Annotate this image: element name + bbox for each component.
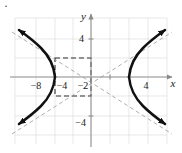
right-branch-upper <box>129 30 165 77</box>
hyperbola-figure: −8 −4 −2 4 4 −4 y x · <box>0 0 182 153</box>
y-axis-label: y <box>80 10 86 22</box>
y-tick-label--4: −4 <box>75 117 86 128</box>
x-tick-label--4: −4 <box>57 80 68 91</box>
x-axis-label: x <box>170 77 176 89</box>
left-branch-upper <box>19 30 55 77</box>
x-tick-label--8: −8 <box>31 80 42 91</box>
axis-tick-labels: −8 −4 −2 4 4 −4 <box>31 33 149 128</box>
x-tick-label-4: 4 <box>144 80 149 91</box>
graph-canvas: −8 −4 −2 4 4 −4 y x · <box>0 0 182 153</box>
corner-bullet-marker: · <box>4 0 8 13</box>
y-tick-label-4: 4 <box>79 33 84 44</box>
x-tick-label--2: −2 <box>78 80 89 91</box>
